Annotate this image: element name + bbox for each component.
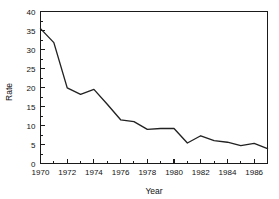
y-tick-label: 5: [31, 141, 36, 150]
y-tick-label: 15: [27, 103, 36, 112]
x-tick-label: 1972: [58, 168, 76, 177]
x-tick-label: 1976: [112, 168, 130, 177]
y-tick-label: 40: [27, 8, 36, 17]
chart-figure: 0510152025303540 19701972197419761978198…: [0, 0, 279, 199]
y-tick-label: 30: [27, 46, 36, 55]
x-tick-label: 1982: [192, 168, 210, 177]
y-axis-tick-labels: 0510152025303540: [27, 8, 36, 169]
line-chart-canvas: 0510152025303540 19701972197419761978198…: [0, 0, 279, 199]
y-tick-label: 25: [27, 65, 36, 74]
y-axis-ticks: [41, 12, 45, 164]
data-series-group: [41, 29, 268, 149]
plot-frame: [41, 12, 268, 164]
x-tick-label: 1974: [85, 168, 103, 177]
x-tick-label: 1970: [32, 168, 50, 177]
x-tick-label: 1980: [165, 168, 183, 177]
y-tick-label: 35: [27, 27, 36, 36]
x-tick-label: 1986: [245, 168, 263, 177]
y-tick-label: 10: [27, 122, 36, 131]
data-line-1: [41, 29, 268, 149]
axis-frame: [41, 12, 268, 164]
x-axis-title: Year: [145, 186, 162, 196]
y-axis-title: Rate: [4, 83, 14, 101]
x-axis-ticks: [41, 159, 268, 164]
x-tick-label: 1978: [138, 168, 156, 177]
y-tick-label: 20: [27, 84, 36, 93]
x-axis-tick-labels: 197019721974197619781980198219841986: [32, 168, 264, 177]
x-tick-label: 1984: [219, 168, 237, 177]
